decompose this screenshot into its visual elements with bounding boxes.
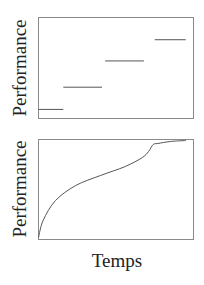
bottom-chart-curve: Performance Temps <box>0 0 204 285</box>
bottom-chart-y-axis-label: Performance <box>9 134 31 244</box>
bottom-chart-frame <box>39 140 194 240</box>
bottom-chart-x-axis-label: Temps <box>90 250 144 272</box>
bottom-chart-curve-line <box>39 141 186 238</box>
